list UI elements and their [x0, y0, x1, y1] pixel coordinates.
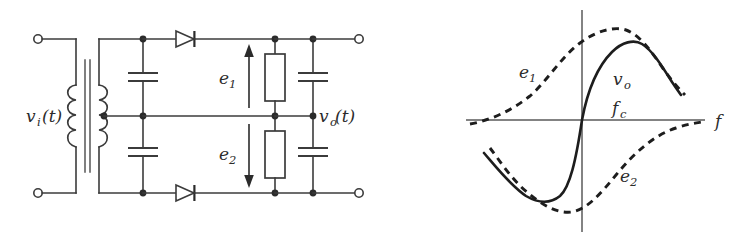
transformer-primary-winding [68, 85, 76, 147]
output-voltage-arg: (t) [335, 106, 355, 126]
load-resistor-lower [265, 131, 285, 178]
load-resistor-upper [265, 54, 285, 101]
chart-e1-sub: 1 [529, 71, 536, 85]
technical-figure: v i (t) [0, 0, 740, 250]
output-terminal-bottom [313, 189, 363, 197]
output-voltage-label: v o (t) [319, 106, 355, 129]
input-voltage-base: v [26, 106, 36, 126]
chart-e2-sub: 2 [629, 175, 637, 189]
input-voltage-arg: (t) [42, 106, 62, 126]
chart-e2-base: e [620, 166, 630, 186]
input-voltage-sub: i [37, 115, 41, 129]
chart-annotation-e2: e 2 [620, 166, 637, 189]
input-terminal-top [34, 35, 76, 43]
chart-fc-sub: c [620, 107, 627, 121]
chart-annotation-vo: v o [613, 69, 631, 92]
branch-voltage-e2: e 2 [219, 124, 254, 188]
discriminator-circuit-schematic: v i (t) [0, 0, 380, 250]
arrowhead-down-icon [244, 175, 254, 188]
input-voltage-label: v i (t) [26, 106, 62, 129]
chart-annotation-fc: f c [610, 98, 627, 121]
chart-annotation-e1: e 1 [519, 62, 536, 85]
x-axis-label: f [713, 111, 724, 131]
e2-label-sub: 2 [228, 153, 236, 167]
e1-label-sub: 1 [229, 77, 236, 91]
chart-e1-base: e [519, 62, 529, 82]
chart-vo-base: v [613, 69, 623, 89]
output-terminal-top [313, 35, 363, 43]
e1-label-base: e [219, 68, 229, 88]
chart-vo-sub: o [624, 78, 631, 92]
curve-e2 [490, 122, 702, 212]
output-voltage-base: v [319, 106, 329, 126]
diode-top [176, 31, 194, 47]
node-outcap-mid [310, 113, 317, 120]
arrowhead-up-icon [244, 44, 254, 57]
input-terminal-bottom [34, 189, 76, 197]
diode-bottom [176, 185, 194, 201]
discriminator-response-chart: e 1 v o f c e 2 f [380, 0, 740, 250]
branch-voltage-e1: e 1 [219, 44, 254, 108]
curve-e1 [470, 29, 685, 124]
e2-label-base: e [219, 144, 229, 164]
